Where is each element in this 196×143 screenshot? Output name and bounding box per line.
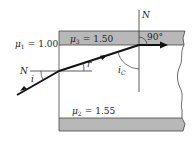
angle-r-label: r′ — [87, 59, 93, 69]
angle-90-label: 90° — [147, 32, 163, 42]
refracted-ray — [59, 45, 139, 71]
angle-i-label: i — [31, 74, 34, 84]
refraction-diagram: N N μ1=1.00 μ3=1.50 μ2=1.55 i r′ iC 90° — [0, 0, 196, 143]
mu1-label: μ1=1.00 — [15, 39, 59, 50]
angle-i-arc — [41, 71, 43, 80]
refracted-ray-arrowhead — [100, 55, 108, 60]
angle-ic-arc — [118, 52, 139, 69]
bottom-cladding-band — [59, 118, 185, 131]
normal-left-label: N — [19, 66, 29, 76]
core-right-break-edge — [177, 45, 184, 118]
normal-top-label: N — [141, 10, 151, 20]
angle-ic-label: iC — [118, 65, 126, 76]
mu2-label: μ2=1.55 — [72, 106, 116, 117]
angle-r-arc — [83, 63, 84, 71]
